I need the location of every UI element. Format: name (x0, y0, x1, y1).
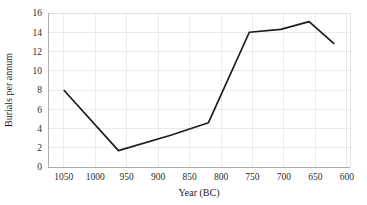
x-tick-label: 950 (120, 172, 135, 182)
y-gridlines (48, 13, 350, 167)
x-tick-label: 1000 (86, 172, 105, 182)
x-tick-labels: 10501000950900850800750700650600 (54, 172, 354, 182)
y-tick-label: 10 (33, 66, 43, 76)
y-tick-label: 0 (37, 162, 42, 172)
y-tick-label: 16 (33, 8, 43, 18)
x-tick-label: 700 (277, 172, 292, 182)
y-axis-title: Burials per annum (3, 53, 14, 127)
y-tick-label: 2 (37, 143, 42, 153)
y-tick-label: 4 (37, 124, 42, 134)
x-tick-label: 1050 (54, 172, 73, 182)
y-tick-label: 6 (37, 105, 42, 115)
x-tick-label: 850 (182, 172, 197, 182)
y-tick-label: 14 (33, 28, 43, 38)
x-tick-label: 650 (308, 172, 323, 182)
x-tick-label: 600 (340, 172, 355, 182)
x-tick-label: 900 (151, 172, 166, 182)
y-tick-labels: 0246810121416 (33, 8, 43, 172)
x-tick-label: 800 (214, 172, 229, 182)
line-chart: 0246810121416 10501000950900850800750700… (0, 0, 367, 205)
chart-figure: 0246810121416 10501000950900850800750700… (0, 0, 367, 205)
y-tick-label: 8 (37, 85, 42, 95)
x-axis-title: Year (BC) (179, 187, 220, 199)
x-tick-label: 750 (245, 172, 260, 182)
data-series-burials (64, 22, 335, 151)
y-tick-label: 12 (33, 47, 43, 57)
